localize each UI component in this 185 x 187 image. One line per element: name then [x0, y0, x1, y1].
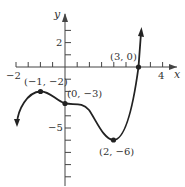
y-tick-label-neg5: −5	[48, 122, 63, 133]
y-axis-arrow-icon	[62, 13, 68, 22]
point-neg1-neg2	[38, 89, 43, 94]
point-label-0-neg3: (0, −3)	[67, 88, 102, 99]
x-axis-label: x	[174, 68, 181, 81]
x-axis	[16, 62, 177, 70]
curve-right-arrow-icon	[138, 27, 144, 37]
y-tick-label-2: 2	[56, 37, 62, 48]
x-tick-label-neg2: −2	[6, 70, 21, 81]
point-2-neg6	[111, 137, 116, 142]
y-axis	[62, 13, 71, 186]
y-axis-label: y	[53, 8, 61, 21]
point-0-neg3	[62, 101, 67, 106]
x-tick-label-4: 4	[158, 70, 164, 81]
curve-left-arrow-icon	[14, 119, 20, 127]
point-3-0	[136, 64, 141, 69]
function-graph: y x −2 4 2 −5 (−1, −2) (0, −3) (2, −6) (…	[0, 0, 185, 187]
point-label-3-0: (3, 0)	[110, 51, 137, 62]
point-label-neg1-neg2: (−1, −2)	[24, 76, 68, 87]
point-label-2-neg6: (2, −6)	[99, 146, 134, 157]
